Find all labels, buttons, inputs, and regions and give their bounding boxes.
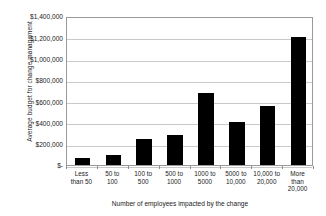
x-axis-category-label: 500 to1000 bbox=[159, 170, 190, 185]
x-axis-category-labels: Lessthan 5050 to100100 to500500 to100010… bbox=[66, 170, 313, 202]
x-axis-tick-mark bbox=[313, 166, 314, 169]
x-axis-category-label-line: 5000 to bbox=[220, 170, 251, 178]
x-axis-tick-mark bbox=[97, 166, 98, 169]
x-axis-category-label-line: 50 to bbox=[97, 170, 128, 178]
y-axis-tick-label: $200,000 bbox=[2, 141, 63, 148]
x-axis-category-label: 50 to100 bbox=[97, 170, 128, 185]
x-axis-category-label-line: 1000 bbox=[159, 178, 190, 186]
bar bbox=[291, 37, 306, 165]
plot-area bbox=[66, 17, 313, 166]
x-axis-category-label-line: 20,000 bbox=[251, 178, 282, 186]
x-axis-category-label-line: 10,000 to bbox=[251, 170, 282, 178]
x-axis-category-label-line: 5000 bbox=[190, 178, 221, 186]
x-axis-category-label: Lessthan 50 bbox=[66, 170, 97, 185]
x-axis-category-label-line: 500 bbox=[128, 178, 159, 186]
x-axis-tick-mark bbox=[128, 166, 129, 169]
bar bbox=[260, 106, 275, 165]
y-axis-tick-label: $1,400,000 bbox=[2, 13, 63, 20]
x-axis-tick-mark bbox=[282, 166, 283, 169]
bars-layer bbox=[67, 18, 312, 165]
x-axis-category-label: 5000 to10,000 bbox=[220, 170, 251, 185]
x-axis-category-label-line: 100 to bbox=[128, 170, 159, 178]
x-axis-category-label: 1000 to5000 bbox=[190, 170, 221, 185]
x-axis-category-label-line: 1000 to bbox=[190, 170, 221, 178]
x-axis-tick-mark bbox=[220, 166, 221, 169]
x-axis-category-label-line: 100 bbox=[97, 178, 128, 186]
x-axis-category-label-line: 10,000 bbox=[220, 178, 251, 186]
y-axis-tick-labels: $-$200,000$400,000$600,000$800,000$1,000… bbox=[0, 0, 63, 216]
bar bbox=[198, 93, 213, 165]
x-axis-category-label-line: Less bbox=[66, 170, 97, 178]
bar-chart: Average budget for change management $-$… bbox=[0, 0, 326, 216]
bar bbox=[75, 158, 90, 165]
x-axis-category-label-line: More bbox=[282, 170, 313, 178]
x-axis-tick-mark bbox=[190, 166, 191, 169]
x-axis-tick-mark bbox=[66, 166, 67, 169]
x-axis-category-label: Morethan20,000 bbox=[282, 170, 313, 193]
x-axis-category-label-line: 500 to bbox=[159, 170, 190, 178]
x-axis-tick-mark bbox=[251, 166, 252, 169]
x-axis-category-label: 10,000 to20,000 bbox=[251, 170, 282, 185]
y-axis-tick-label: $800,000 bbox=[2, 77, 63, 84]
y-axis-tick-label: $- bbox=[2, 162, 63, 169]
x-axis-tick-mark bbox=[159, 166, 160, 169]
y-axis-tick-label: $1,200,000 bbox=[2, 35, 63, 42]
bar bbox=[106, 155, 121, 165]
x-axis-category-label-line: than bbox=[282, 178, 313, 186]
bar bbox=[136, 139, 151, 165]
bar bbox=[167, 135, 182, 165]
x-axis-category-label-line: than 50 bbox=[66, 178, 97, 186]
x-axis-title: Number of employees impacted by the chan… bbox=[40, 200, 320, 207]
x-axis-category-label: 100 to500 bbox=[128, 170, 159, 185]
bar bbox=[229, 122, 244, 165]
y-axis-tick-label: $600,000 bbox=[2, 99, 63, 106]
y-axis-tick-label: $1,000,000 bbox=[2, 56, 63, 63]
x-axis-category-label-line: 20,000 bbox=[282, 185, 313, 193]
y-axis-tick-label: $400,000 bbox=[2, 120, 63, 127]
